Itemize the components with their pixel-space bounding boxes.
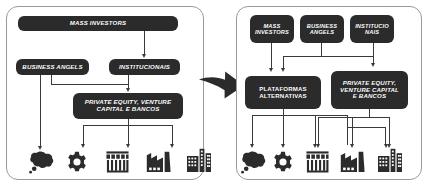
connector-plataformas-drop-buildings [385,127,386,145]
arrowhead-factory-left [126,144,130,148]
diagram-canvas: MASS INVESTORS BUSINESS ANGELS INSTITUCI… [0,0,426,190]
node-mass-investors-left[interactable]: MASS INVESTORS [18,16,178,31]
arrowhead-factory-right [350,144,354,148]
arrowhead-gear-right [281,144,285,148]
arrowhead-shop-left [81,144,85,148]
thought-cloud-icon-left [27,150,55,174]
connector-plataformas-to-gear [283,115,284,145]
factory-icon-right [340,151,366,173]
node-label-line2: CAPITAL E BANCOS [85,106,172,113]
node-label-line2: INVESTORS [255,29,289,35]
node-label-line3: E BANCOS [340,93,399,100]
node-institucionais-left[interactable]: INSTITUCIONAIS [109,59,180,75]
connector-pe-to-factory [128,125,129,145]
arrowhead-plataformas-from-ba [281,68,285,72]
factory-icon-left [146,151,172,173]
arrowhead-shop-right-b [316,144,320,148]
connector-pe-to-shop-right [318,117,319,145]
node-plataformas-alternativas[interactable]: PLATAFORMAS ALTERNATIVAS [245,76,321,109]
gear-icon-right [272,151,294,173]
connector-ba-to-idea [40,75,41,147]
shop-icon-left [105,150,130,174]
connector-ba-down-right [321,43,322,57]
connector-pe-to-factory-right [352,117,353,145]
connector-pe-to-shop [83,125,84,145]
node-institucionais-right[interactable]: INSTITUCIO NAIS [350,15,394,43]
arrowhead-idea-right [250,144,254,148]
node-label-line2: ALTERNATIVAS [259,93,307,100]
node-label: INSTITUCIONAIS [112,64,177,71]
node-business-angels-right[interactable]: BUSINESS ANGELS [300,15,344,43]
arrowhead-buildings-left [170,144,174,148]
node-label-line2: ANGELS [307,29,337,35]
connector-plataformas-to-buildings [347,115,348,145]
node-label-line2: NAIS [355,29,389,35]
connector-mass-to-plataformas [271,43,272,69]
thought-cloud-icon-right [239,150,267,174]
node-private-equity-right[interactable]: PRIVATE EQUITY, VENTURE CAPITAL E BANCOS [331,71,408,109]
shop-icon-right [305,150,330,174]
node-private-equity-left[interactable]: PRIVATE EQUITY, VENTURE CAPITAL E BANCOS [73,93,183,119]
node-business-angels-left[interactable]: BUSINESS ANGELS [16,59,89,75]
arrowhead-plataformas-from-mass [269,68,273,72]
gear-icon-left [66,151,88,173]
connector-ba-right [51,84,129,85]
connector-inst-to-pe-right [373,43,374,64]
node-label: MASS INVESTORS [21,20,175,27]
connector-plataformas-to-shop [315,115,316,145]
arrowhead-private-equity-left [126,88,130,92]
connector-ba-bus-right [283,56,374,57]
buildings-icon-right [377,148,403,173]
connector-pe-to-buildings-right [389,117,390,145]
connector-pe-bus-right [318,117,390,118]
buildings-icon-left [186,148,212,173]
node-mass-investors-right[interactable]: MASS INVESTORS [250,15,294,43]
connector-pe-to-buildings [172,125,173,145]
connector-plataformas-to-idea [252,115,253,145]
connector-mass-to-institucionais [144,31,145,55]
arrowhead-institucionais [142,54,146,58]
node-label: BUSINESS ANGELS [19,64,86,71]
